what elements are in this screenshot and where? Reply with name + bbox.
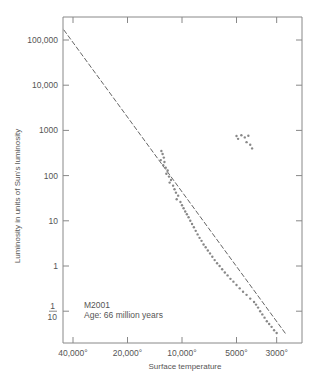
star-point [200, 240, 202, 242]
star-point [184, 210, 186, 212]
star-point [237, 138, 239, 140]
star-point [245, 294, 247, 296]
star-point [255, 303, 257, 305]
x-tick-label: 5000° [225, 348, 247, 358]
star-point [204, 246, 206, 248]
star-point [229, 278, 231, 280]
y-tick-label: 1 [53, 261, 58, 271]
star-point [165, 173, 167, 175]
star-point [247, 135, 249, 137]
star-point [235, 135, 237, 137]
star-point [216, 262, 218, 264]
star-point [196, 233, 198, 235]
hr-diagram: 40,000°20,000°10,000°5000°3000° 100,0001… [0, 0, 313, 380]
star-point [244, 136, 246, 138]
star-point [168, 181, 170, 183]
star-point [168, 175, 170, 177]
y-tick-label: 100 [44, 171, 58, 181]
star-point [202, 243, 204, 245]
star-point [249, 297, 251, 299]
star-point [218, 265, 220, 267]
data-series [55, 18, 286, 334]
plot-frame [63, 17, 302, 343]
star-point [163, 156, 165, 158]
x-axis-label: Surface temperature [149, 362, 222, 371]
star-point [259, 310, 261, 312]
star-point [249, 144, 251, 146]
star-point [253, 301, 255, 303]
star-point [266, 320, 268, 322]
star-point [213, 259, 215, 261]
star-point [273, 329, 275, 331]
star-point [261, 313, 263, 315]
star-point [211, 256, 213, 258]
y-tick-label: 1 [50, 301, 55, 311]
star-point [221, 268, 223, 270]
y-tick-label: 100,000 [27, 35, 58, 45]
y-tick-label: 1000 [39, 125, 58, 135]
star-point [175, 198, 177, 200]
star-point [226, 274, 228, 276]
star-point [207, 249, 209, 251]
y-axis-ticks: 100,00010,0001000100101110 [27, 35, 302, 322]
cluster-name: M2001 [84, 300, 110, 310]
star-point [175, 191, 177, 193]
x-tick-label: 10,000° [167, 348, 196, 358]
star-point [187, 216, 189, 218]
cluster-age: Age: 66 million years [84, 310, 163, 320]
star-point [239, 287, 241, 289]
star-point [186, 213, 188, 215]
star-point [170, 179, 172, 181]
star-point [160, 150, 162, 152]
star-point [173, 188, 175, 190]
svg-text:10: 10 [48, 312, 58, 322]
star-point [191, 223, 193, 225]
star-point [172, 184, 174, 186]
star-point [240, 134, 242, 136]
star-point [160, 159, 162, 161]
star-point [165, 166, 167, 168]
star-point [245, 141, 247, 143]
star-point [270, 326, 272, 328]
star-point [209, 252, 211, 254]
y-axis-label: Luminosity in units of Sun's luminosity [13, 129, 22, 263]
star-point [181, 204, 183, 206]
star-point [242, 291, 244, 293]
y-tick-label: 10 [49, 216, 59, 226]
star-point [195, 230, 197, 232]
star-point [232, 280, 234, 282]
star-point [177, 194, 179, 196]
star-point [189, 220, 191, 222]
star-point [224, 271, 226, 273]
star-point [162, 164, 164, 166]
star-point [193, 226, 195, 228]
star-point [166, 169, 168, 171]
x-tick-label: 3000° [266, 348, 288, 358]
star-point [263, 316, 265, 318]
x-tick-label: 20,000° [113, 348, 142, 358]
star-point [182, 207, 184, 209]
star-point [163, 161, 165, 163]
star-point [268, 323, 270, 325]
star-point [161, 153, 163, 155]
star-point [235, 284, 237, 286]
star-point [251, 147, 253, 149]
star-point [275, 332, 277, 334]
x-tick-label: 40,000° [58, 348, 87, 358]
star-point [179, 201, 181, 203]
reference-line [55, 18, 286, 334]
star-point [198, 237, 200, 239]
y-tick-label: 10,000 [32, 80, 58, 90]
star-point [257, 306, 259, 308]
